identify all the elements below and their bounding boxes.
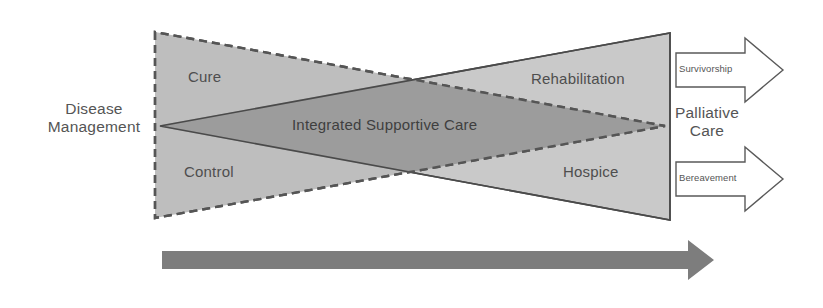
label-palliative-care: Palliative Care — [667, 104, 747, 141]
label-disease-management: Disease Management — [36, 100, 152, 137]
label-integrated-supportive-care: Integrated Supportive Care — [292, 116, 477, 134]
label-survivorship: Survivorship — [679, 63, 732, 74]
diagram-canvas: Disease Management Cure Control Integrat… — [0, 0, 823, 308]
timeline-arrow — [162, 240, 714, 280]
label-rehabilitation: Rehabilitation — [531, 70, 625, 88]
label-hospice: Hospice — [563, 163, 619, 181]
diagram-graphics — [0, 0, 823, 308]
label-cure: Cure — [188, 68, 221, 86]
label-control: Control — [184, 163, 234, 181]
label-bereavement: Bereavement — [679, 172, 737, 183]
